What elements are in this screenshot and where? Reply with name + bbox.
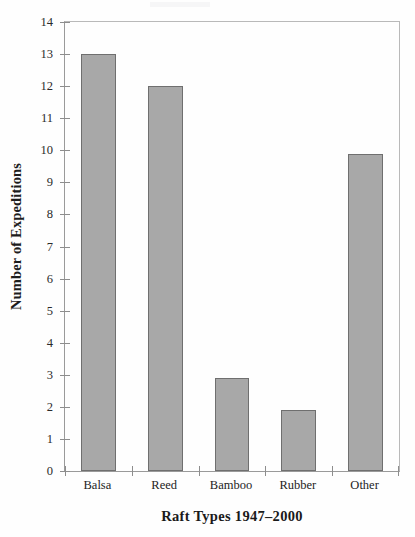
y-axis-tick-label: 3 (47, 369, 53, 382)
x-axis-category-label: Reed (151, 479, 177, 492)
x-axis-title: Raft Types 1947–2000 (64, 508, 400, 525)
y-axis-tick: 7 (60, 247, 70, 248)
y-axis-title-text: Number of Expeditions (9, 162, 26, 309)
y-axis-tick: 8 (60, 214, 70, 215)
y-axis-tick: 11 (60, 118, 70, 119)
x-axis-tick (398, 466, 399, 476)
y-axis-tick-label: 2 (47, 401, 53, 414)
y-axis-tick: 5 (60, 311, 70, 312)
x-axis-tick (132, 466, 133, 476)
y-axis-tick: 10 (60, 150, 70, 151)
y-axis-tick: 14 (60, 22, 70, 23)
y-axis-tick: 13 (60, 54, 70, 55)
y-axis-tick-label: 7 (47, 240, 53, 253)
y-axis-tick-label: 6 (47, 272, 53, 285)
y-axis-tick-label: 8 (47, 208, 53, 221)
bar-rubber (281, 410, 316, 471)
y-axis-tick: 2 (60, 407, 70, 408)
y-axis-tick: 4 (60, 343, 70, 344)
y-axis-tick-label: 1 (47, 433, 53, 446)
x-axis-tick (332, 466, 333, 476)
y-axis-tick-label: 14 (41, 16, 54, 29)
y-axis-tick-label: 13 (41, 48, 54, 61)
y-axis-tick-label: 5 (47, 304, 53, 317)
y-axis-tick-label: 0 (47, 465, 53, 478)
y-axis-title: Number of Expeditions (0, 0, 34, 472)
y-axis-tick: 12 (60, 86, 70, 87)
y-axis-tick: 6 (60, 279, 70, 280)
x-axis-category-label: Rubber (279, 479, 316, 492)
x-axis-tick (199, 466, 200, 476)
bar-balsa (81, 54, 116, 471)
x-axis-tick (65, 466, 66, 476)
y-axis-tick-label: 9 (47, 176, 53, 189)
plot-area: 01234567891011121314 (64, 21, 400, 472)
bar-chart-figure: Number of Expeditions 012345678910111213… (0, 0, 415, 537)
y-axis-tick: 3 (60, 375, 70, 376)
x-axis-category-label: Balsa (84, 479, 112, 492)
bar-bamboo (215, 378, 250, 471)
scan-artifact (150, 2, 210, 7)
y-axis-tick-label: 12 (41, 80, 54, 93)
x-axis-category-label: Other (350, 479, 378, 492)
y-axis-tick: 9 (60, 182, 70, 183)
bar-reed (148, 86, 183, 471)
x-axis-category-label: Bamboo (210, 479, 252, 492)
bar-other (348, 154, 383, 472)
y-axis-tick-label: 10 (41, 144, 54, 157)
y-axis-tick-label: 4 (47, 336, 53, 349)
y-axis-tick-label: 11 (41, 112, 53, 125)
y-axis-tick: 1 (60, 439, 70, 440)
x-axis-tick (265, 466, 266, 476)
